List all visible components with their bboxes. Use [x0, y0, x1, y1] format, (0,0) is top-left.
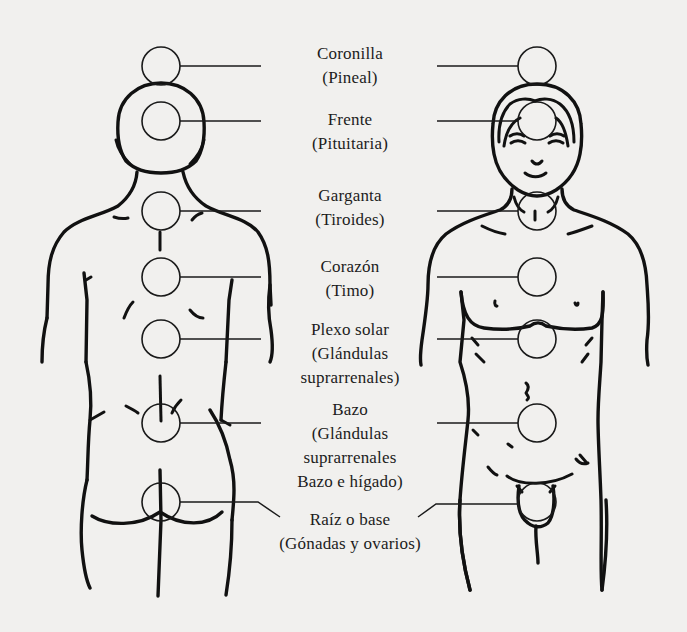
- chakra-name: Coronilla: [250, 42, 450, 66]
- chakra-gland: suprarrenales: [250, 446, 450, 470]
- label-frente: Frente (Pituitaria): [250, 108, 450, 156]
- chakra-name: Garganta: [250, 184, 450, 208]
- chakra-diagram: Coronilla (Pineal) Frente (Pituitaria) G…: [0, 0, 687, 632]
- chakra-gland: (Glándulas: [250, 342, 450, 366]
- chakra-gland: (Tiroides): [250, 208, 450, 232]
- label-garganta: Garganta (Tiroides): [250, 184, 450, 232]
- chakra-name: Raíz o base: [250, 508, 450, 532]
- label-bazo: Bazo (Glándulas suprarrenales Bazo e híg…: [250, 398, 450, 494]
- chakra-name: Corazón: [250, 255, 450, 279]
- chakra-gland: (Gónadas y ovarios): [250, 532, 450, 556]
- chakra-gland: (Pineal): [250, 66, 450, 90]
- chakra-name: Bazo: [250, 398, 450, 422]
- chakra-gland: (Glándulas: [250, 422, 450, 446]
- label-coronilla: Coronilla (Pineal): [250, 42, 450, 90]
- front-view-figure: [420, 84, 648, 590]
- back-view-chakras: [142, 47, 180, 521]
- chakra-gland: (Pituitaria): [250, 132, 450, 156]
- front-view-chakras: [518, 47, 556, 521]
- label-corazon: Corazón (Timo): [250, 255, 450, 303]
- chakra-gland: Bazo e hígado): [250, 470, 450, 494]
- chakra-name: Frente: [250, 108, 450, 132]
- chakra-name: Plexo solar: [250, 318, 450, 342]
- chakra-gland: (Timo): [250, 279, 450, 303]
- label-plexo-solar: Plexo solar (Glándulas suprarrenales): [250, 318, 450, 390]
- label-raiz: Raíz o base (Gónadas y ovarios): [250, 508, 450, 556]
- chakra-gland: suprarrenales): [250, 366, 450, 390]
